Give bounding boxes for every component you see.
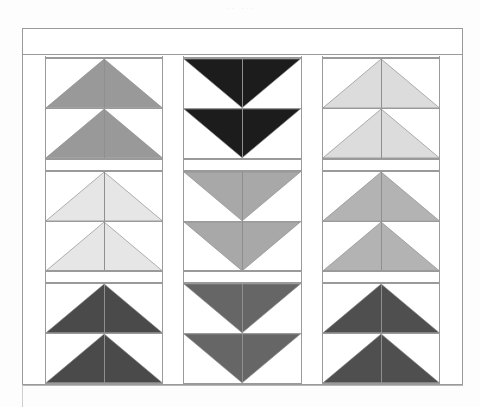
sashing-column-center-row2 <box>184 271 300 283</box>
goose-triangle <box>46 222 162 271</box>
block-left-row2 <box>46 171 162 272</box>
page-canvas: ·· ··· <box>0 0 480 407</box>
sashing-column-left-row2 <box>46 271 162 283</box>
goose-triangle <box>323 284 439 333</box>
block-left-row2-unit-2 <box>46 222 162 272</box>
top-smudge-text: ·· ··· <box>196 1 286 15</box>
goose-triangle <box>46 59 162 108</box>
quilt-body <box>23 56 462 384</box>
block-left-row2-unit-1 <box>46 171 162 222</box>
goose-triangle <box>184 222 300 271</box>
column-right <box>323 56 439 384</box>
block-right-row1-unit-2 <box>323 109 439 159</box>
block-left-row3-unit-2 <box>46 334 162 384</box>
column-center <box>184 56 300 384</box>
goose-triangle <box>184 334 300 383</box>
goose-triangle <box>184 59 300 108</box>
column-left <box>46 56 162 384</box>
sashing-after-column-left <box>162 56 184 384</box>
goose-triangle <box>46 172 162 221</box>
quilt-top-border-strip <box>23 29 462 55</box>
block-left-row1-unit-1 <box>46 58 162 109</box>
goose-triangle <box>46 284 162 333</box>
goose-triangle <box>323 334 439 383</box>
block-right-row2-unit-1 <box>323 171 439 222</box>
block-right-row1-unit-1 <box>323 58 439 109</box>
page-left-rule <box>22 385 23 407</box>
goose-triangle <box>323 222 439 271</box>
quilt-frame <box>22 28 463 385</box>
block-center-row3-unit-2 <box>184 334 300 384</box>
sashing-left-edge <box>23 56 46 384</box>
sashing-column-left-row1 <box>46 159 162 171</box>
block-center-row3 <box>184 283 300 384</box>
page-bottom-rule <box>22 385 463 386</box>
block-right-row3-unit-2 <box>323 334 439 384</box>
block-center-row1 <box>184 58 300 159</box>
goose-triangle <box>184 109 300 158</box>
block-left-row1-unit-2 <box>46 109 162 159</box>
block-right-row3 <box>323 283 439 384</box>
goose-triangle <box>184 284 300 333</box>
block-center-row2-unit-1 <box>184 171 300 222</box>
goose-triangle <box>46 334 162 383</box>
goose-triangle <box>323 59 439 108</box>
block-center-row1-unit-2 <box>184 109 300 159</box>
block-right-row1 <box>323 58 439 159</box>
sashing-column-right-row1 <box>323 159 439 171</box>
block-center-row2 <box>184 171 300 272</box>
block-left-row3 <box>46 283 162 384</box>
block-right-row2-unit-2 <box>323 222 439 272</box>
goose-triangle <box>184 172 300 221</box>
goose-triangle <box>46 109 162 158</box>
block-center-row2-unit-2 <box>184 222 300 272</box>
block-right-row2 <box>323 171 439 272</box>
block-center-row1-unit-1 <box>184 58 300 109</box>
sashing-column-center-row1 <box>184 159 300 171</box>
goose-triangle <box>323 109 439 158</box>
goose-triangle <box>323 172 439 221</box>
sashing-after-column-right <box>439 56 462 384</box>
block-right-row3-unit-1 <box>323 283 439 334</box>
block-left-row3-unit-1 <box>46 283 162 334</box>
sashing-column-right-row2 <box>323 271 439 283</box>
block-left-row1 <box>46 58 162 159</box>
block-center-row3-unit-1 <box>184 283 300 334</box>
sashing-after-column-center <box>301 56 323 384</box>
